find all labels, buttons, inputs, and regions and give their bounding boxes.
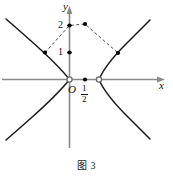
point-x-half [83, 77, 87, 81]
origin-label: O [68, 84, 76, 95]
x-axis-label: x [159, 80, 164, 91]
hyperbola-right-branch-upper [99, 20, 150, 80]
point-upper-apex [83, 22, 87, 26]
fraction-one-half: 1 2 [81, 84, 88, 104]
fraction-numerator: 1 [81, 84, 88, 93]
point-right-branch [116, 51, 120, 55]
x-tick-label-half: 1 2 [81, 84, 88, 104]
point-y-2 [67, 23, 71, 27]
hyperbola-right-branch-lower [99, 80, 150, 140]
vertex-left-open-circle [67, 77, 72, 82]
dashed-construction-path [45, 24, 118, 53]
hyperbola-left-branch-lower [6, 80, 70, 141]
hyperbola-figure: y x O 2 1 1 2 图 3 [0, 0, 173, 177]
vertex-right-open-circle [96, 77, 101, 82]
figure-caption: 图 3 [0, 157, 173, 172]
fraction-denominator: 2 [81, 95, 88, 104]
y-tick-label-2: 2 [58, 20, 63, 30]
point-y-1 [67, 50, 71, 54]
point-left-branch [43, 50, 47, 54]
y-tick-label-1: 1 [58, 47, 63, 57]
y-axis-label: y [63, 1, 68, 12]
